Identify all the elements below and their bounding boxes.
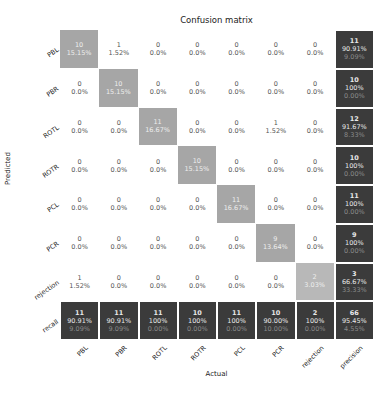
cell-count: 10 — [350, 154, 359, 162]
precision-cell: 366.67%33.33% — [335, 263, 374, 302]
matrix-cell: 00.0% — [60, 108, 99, 147]
matrix-cell: 00.0% — [296, 224, 335, 263]
cell-percent: 100% — [345, 162, 364, 170]
cell-error: 0.00% — [344, 247, 365, 255]
cell-count: 0 — [274, 80, 278, 88]
matrix-cell: 00.0% — [256, 146, 295, 185]
matrix-cell: 00.0% — [217, 224, 256, 263]
matrix-cell: 00.0% — [99, 108, 138, 147]
recall-cell: 1190.91%9.09% — [99, 301, 138, 340]
y-tick-text: rejection — [32, 279, 60, 302]
cell-count: 12 — [350, 115, 359, 123]
cell-percent: 0.0% — [71, 204, 88, 212]
x-tick-label: PBL — [60, 344, 99, 374]
cell-count: 0 — [117, 158, 121, 166]
cell-percent: 0.0% — [150, 282, 167, 290]
cell-percent: 15.15% — [184, 165, 209, 173]
recall-cell: 1090.00%10.00% — [256, 301, 295, 340]
y-tick-label: PCL — [0, 200, 58, 208]
cell-percent: 16.67% — [224, 204, 249, 212]
matrix-cell: 00.0% — [256, 263, 295, 302]
matrix-cell: 1116.67% — [217, 185, 255, 223]
cell-percent: 100% — [345, 84, 364, 92]
matrix-cell: 00.0% — [296, 146, 335, 185]
precision-cell: 1291.67%8.33% — [335, 108, 374, 147]
matrix-cell: 00.0% — [178, 69, 217, 108]
y-tick-label: ROTL — [0, 123, 58, 131]
cell-percent: 0.0% — [111, 282, 128, 290]
cell-count: 11 — [154, 309, 163, 317]
cell-count: 0 — [274, 158, 278, 166]
cell-percent: 100% — [345, 239, 364, 247]
cell-percent: 0.0% — [150, 88, 167, 96]
cell-percent: 0.0% — [228, 49, 245, 57]
cell-percent: 90.91% — [67, 317, 92, 325]
chart-title: Confusion matrix — [60, 15, 373, 25]
cell-count: 0 — [156, 196, 160, 204]
cell-count: 0 — [235, 41, 239, 49]
cell-error: 4.55% — [344, 325, 365, 333]
cell-error: 0.00% — [148, 325, 169, 333]
cell-percent: 100% — [345, 200, 364, 208]
cell-percent: 0.0% — [228, 166, 245, 174]
cell-count: 0 — [274, 274, 278, 282]
matrix-cell: 00.0% — [296, 69, 335, 108]
cell-count: 0 — [156, 80, 160, 88]
precision-cell: 1190.91%9.09% — [335, 30, 374, 69]
confusion-matrix-grid: 1015.15%11.52%00.0%00.0%00.0%00.0%00.0%1… — [60, 30, 374, 340]
cell-count: 10 — [193, 157, 201, 165]
cell-percent: 0.0% — [71, 88, 88, 96]
cell-percent: 0.0% — [189, 127, 206, 135]
x-tick-text: PCR — [259, 344, 286, 371]
matrix-cell: 11.52% — [99, 30, 138, 69]
cell-percent: 1.52% — [266, 127, 287, 135]
cell-percent: 0.0% — [268, 282, 285, 290]
matrix-cell: 00.0% — [139, 224, 178, 263]
precision-cell: 10100%0.00% — [335, 146, 374, 185]
cell-error: 33.33% — [342, 286, 367, 294]
x-tick-text: ROTR — [181, 344, 208, 371]
matrix-cell: 00.0% — [99, 185, 138, 224]
cell-count: 0 — [156, 274, 160, 282]
cell-percent: 100% — [306, 317, 325, 325]
matrix-cell: 1015.15% — [99, 69, 137, 107]
cell-count: 0 — [195, 119, 199, 127]
cell-count: 0 — [235, 80, 239, 88]
cell-percent: 100% — [227, 317, 246, 325]
cell-count: 0 — [117, 235, 121, 243]
cell-percent: 0.0% — [189, 243, 206, 251]
cell-percent: 0.0% — [307, 204, 324, 212]
cell-count: 0 — [78, 80, 82, 88]
matrix-cell: 00.0% — [178, 263, 217, 302]
cell-percent: 0.0% — [307, 243, 324, 251]
matrix-cell: 11.52% — [256, 108, 295, 147]
cell-count: 0 — [195, 196, 199, 204]
cell-count: 10 — [271, 309, 280, 317]
cell-percent: 0.0% — [71, 166, 88, 174]
x-tick-label: ROTL — [139, 344, 178, 374]
matrix-cell: 00.0% — [217, 69, 256, 108]
cell-count: 1 — [117, 41, 121, 49]
cell-count: 3 — [352, 270, 357, 278]
matrix-cell: 00.0% — [60, 69, 99, 108]
matrix-cell: 00.0% — [178, 30, 217, 69]
cell-percent: 0.0% — [228, 282, 245, 290]
recall-cell: 2100%0.00% — [296, 301, 335, 340]
cell-percent: 100% — [149, 317, 168, 325]
cell-percent: 0.0% — [189, 88, 206, 96]
x-tick-labels: PBLPBRROTLROTRPCLPCRrejectionprecision — [60, 344, 374, 374]
y-tick-text: ROTR — [41, 162, 60, 179]
cell-percent: 0.0% — [111, 204, 128, 212]
recall-cell: 10100%0.00% — [178, 301, 217, 340]
cell-count: 0 — [156, 41, 160, 49]
x-tick-label: PCL — [217, 344, 256, 374]
y-tick-text: PBL — [46, 46, 60, 59]
cell-percent: 0.0% — [150, 166, 167, 174]
x-tick-text: rejection — [298, 344, 325, 371]
cell-count: 10 — [193, 309, 202, 317]
cell-count: 2 — [313, 273, 317, 281]
cell-percent: 0.0% — [268, 204, 285, 212]
cell-count: 0 — [313, 158, 317, 166]
cell-error: 0.00% — [187, 325, 208, 333]
cell-percent: 0.0% — [111, 127, 128, 135]
